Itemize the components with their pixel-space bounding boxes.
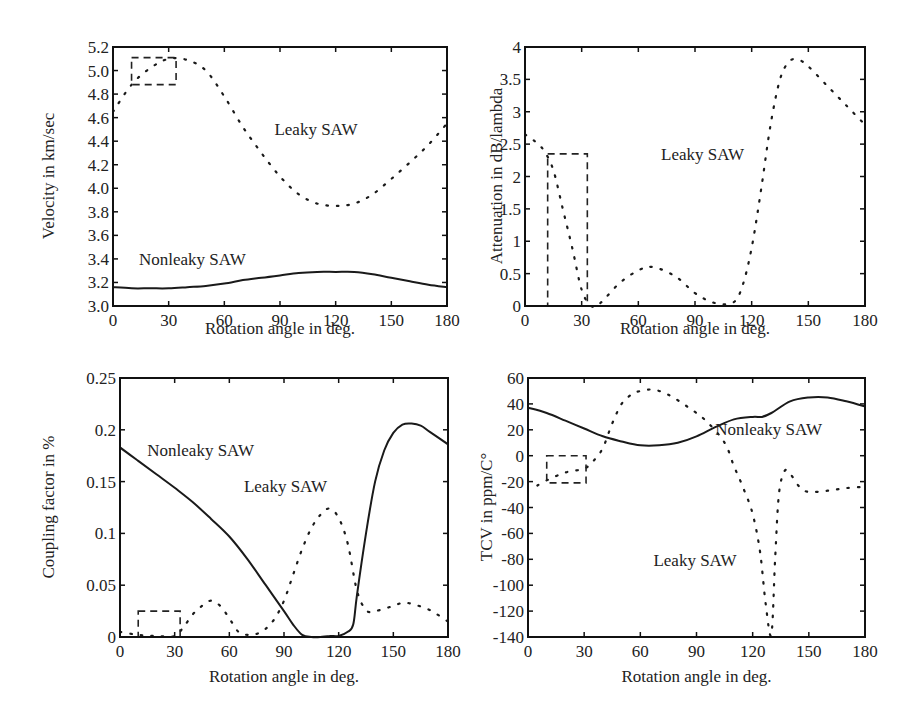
leaky-saw-curve xyxy=(525,59,865,307)
y-tick-label: 4.2 xyxy=(88,156,109,175)
x-tick-label: 120 xyxy=(740,642,766,661)
x-tick-label: 150 xyxy=(796,642,822,661)
x-tick-label: 0 xyxy=(524,642,533,661)
x-tick-label: 0 xyxy=(521,311,530,330)
y-tick-label: 1 xyxy=(513,232,522,251)
x-tick-label: 30 xyxy=(576,642,593,661)
x-tick-label: 180 xyxy=(852,311,878,330)
curve-annotation: Leaky SAW xyxy=(244,477,328,496)
y-tick-label: -120 xyxy=(493,602,524,621)
y-tick-label: 0 xyxy=(108,628,117,647)
y-tick-label: -40 xyxy=(501,499,524,518)
y-tick-label: -140 xyxy=(493,628,524,647)
y-tick-label: -20 xyxy=(501,473,524,492)
y-tick-label: 2 xyxy=(513,168,522,187)
x-axis-label: Rotation angle in deg. xyxy=(209,667,359,686)
y-tick-label: 4.0 xyxy=(88,179,109,198)
x-tick-label: 90 xyxy=(688,642,705,661)
x-tick-label: 90 xyxy=(276,642,293,661)
y-tick-label: -60 xyxy=(501,524,524,543)
dashed-highlight-box xyxy=(132,58,177,85)
x-tick-label: 180 xyxy=(434,311,460,330)
y-tick-label: 3.2 xyxy=(88,273,109,292)
y-tick-label: -80 xyxy=(501,550,524,569)
top-right-subplot: 030609012015018000.511.522.533.54Rotatio… xyxy=(487,38,878,338)
x-tick-label: 120 xyxy=(326,642,352,661)
x-tick-label: 30 xyxy=(166,642,183,661)
curve-annotation: Leaky SAW xyxy=(661,145,745,164)
bottom-right-subplot: 0306090120150180-140-120-100-80-60-40-20… xyxy=(477,369,878,686)
dashed-highlight-box xyxy=(138,611,180,637)
y-tick-label: 4.6 xyxy=(88,109,109,128)
curve-annotation: Leaky SAW xyxy=(653,551,737,570)
x-tick-label: 180 xyxy=(435,642,461,661)
y-tick-label: 0 xyxy=(513,297,522,316)
y-tick-label: 3.4 xyxy=(88,250,110,269)
nonleaky-saw-curve xyxy=(113,272,447,289)
dashed-highlight-box xyxy=(548,154,588,306)
y-tick-label: 0.5 xyxy=(500,265,521,284)
x-tick-label: 30 xyxy=(160,311,177,330)
y-tick-label: 3.6 xyxy=(88,226,109,245)
x-tick-label: 30 xyxy=(573,311,590,330)
y-tick-label: 3.5 xyxy=(500,70,521,89)
x-tick-label: 150 xyxy=(381,642,407,661)
x-tick-label: 60 xyxy=(221,642,238,661)
y-tick-label: 4.4 xyxy=(88,132,110,151)
y-tick-label: 20 xyxy=(507,421,524,440)
y-axis-label: TCV in ppm/C° xyxy=(477,453,496,562)
x-tick-label: 60 xyxy=(632,642,649,661)
y-tick-label: 5.2 xyxy=(88,38,109,57)
y-tick-label: 60 xyxy=(507,369,524,388)
x-tick-label: 150 xyxy=(379,311,405,330)
y-axis-label: Attenuation in dB/lambda xyxy=(487,87,506,264)
y-tick-label: 4 xyxy=(513,38,522,57)
dashed-highlight-box xyxy=(547,456,586,483)
y-tick-label: 3.8 xyxy=(88,203,109,222)
y-axis-label: Velocity in km/sec xyxy=(39,112,58,239)
y-tick-label: 0.1 xyxy=(95,524,116,543)
x-tick-label: 0 xyxy=(109,311,118,330)
axes-frame xyxy=(528,378,865,637)
y-tick-label: 4.8 xyxy=(88,85,109,104)
x-axis-label: Rotation angle in deg. xyxy=(620,319,770,338)
leaky-saw-curve xyxy=(120,508,448,636)
x-axis-label: Rotation angle in deg. xyxy=(205,319,355,338)
x-tick-label: 0 xyxy=(116,642,125,661)
x-tick-label: 180 xyxy=(852,642,878,661)
curve-annotation: Nonleaky SAW xyxy=(147,441,255,460)
y-tick-label: 0.05 xyxy=(86,576,116,595)
curve-annotation: Nonleaky SAW xyxy=(139,250,247,269)
y-tick-label: -100 xyxy=(493,576,524,595)
axes-frame xyxy=(120,378,448,637)
y-tick-label: 5.0 xyxy=(88,62,109,81)
top-left-subplot: 03060901201501803.03.23.43.63.84.04.24.4… xyxy=(39,38,460,338)
x-axis-label: Rotation angle in deg. xyxy=(621,667,771,686)
x-tick-label: 150 xyxy=(796,311,822,330)
curve-annotation: Leaky SAW xyxy=(274,120,358,139)
bottom-left-subplot: 030609012015018000.050.10.150.20.25Rotat… xyxy=(39,369,461,686)
y-tick-label: 0.2 xyxy=(95,421,116,440)
y-tick-label: 0.15 xyxy=(86,473,116,492)
y-tick-label: 0 xyxy=(516,447,525,466)
y-tick-label: 3.0 xyxy=(88,297,109,316)
figure: 03060901201501803.03.23.43.63.84.04.24.4… xyxy=(0,0,920,727)
y-tick-label: 3 xyxy=(513,103,522,122)
y-tick-label: 40 xyxy=(507,395,524,414)
curve-annotation: Nonleaky SAW xyxy=(715,420,823,439)
y-tick-label: 0.25 xyxy=(86,369,116,388)
y-axis-label: Coupling factor in % xyxy=(39,435,58,578)
